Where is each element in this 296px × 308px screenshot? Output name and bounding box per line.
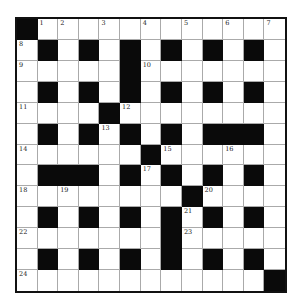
crossword-cell[interactable]	[203, 270, 224, 291]
crossword-cell[interactable]	[38, 145, 59, 166]
crossword-cell[interactable]	[244, 228, 265, 249]
crossword-cell[interactable]: 1	[38, 19, 59, 40]
crossword-cell[interactable]: 2	[58, 19, 79, 40]
crossword-cell[interactable]	[120, 145, 141, 166]
crossword-cell[interactable]	[203, 103, 224, 124]
crossword-cell[interactable]: 6	[223, 19, 244, 40]
crossword-cell[interactable]	[99, 186, 120, 207]
crossword-cell[interactable]	[17, 207, 38, 228]
crossword-cell[interactable]	[99, 270, 120, 291]
crossword-cell[interactable]	[58, 228, 79, 249]
crossword-cell[interactable]	[99, 40, 120, 61]
crossword-cell[interactable]	[58, 103, 79, 124]
crossword-cell[interactable]	[99, 145, 120, 166]
crossword-cell[interactable]	[38, 103, 59, 124]
crossword-cell[interactable]	[141, 186, 162, 207]
crossword-cell[interactable]	[38, 61, 59, 82]
crossword-cell[interactable]	[79, 61, 100, 82]
crossword-cell[interactable]: 8	[17, 40, 38, 61]
crossword-cell[interactable]	[79, 103, 100, 124]
crossword-cell[interactable]	[79, 228, 100, 249]
crossword-cell[interactable]	[58, 82, 79, 103]
crossword-cell[interactable]	[223, 228, 244, 249]
crossword-cell[interactable]: 24	[17, 270, 38, 291]
crossword-cell[interactable]	[120, 186, 141, 207]
crossword-cell[interactable]	[264, 228, 285, 249]
crossword-cell[interactable]	[141, 124, 162, 145]
crossword-cell[interactable]	[161, 270, 182, 291]
crossword-cell[interactable]	[79, 270, 100, 291]
crossword-cell[interactable]	[264, 103, 285, 124]
crossword-cell[interactable]: 12	[120, 103, 141, 124]
crossword-cell[interactable]	[264, 249, 285, 270]
crossword-cell[interactable]	[38, 186, 59, 207]
crossword-cell[interactable]	[17, 124, 38, 145]
crossword-cell[interactable]	[79, 19, 100, 40]
crossword-cell[interactable]	[79, 186, 100, 207]
crossword-cell[interactable]	[182, 145, 203, 166]
crossword-cell[interactable]	[182, 40, 203, 61]
crossword-cell[interactable]	[17, 82, 38, 103]
crossword-cell[interactable]: 17	[141, 165, 162, 186]
crossword-cell[interactable]	[264, 186, 285, 207]
crossword-cell[interactable]	[244, 19, 265, 40]
crossword-cell[interactable]	[58, 207, 79, 228]
crossword-cell[interactable]	[141, 40, 162, 61]
crossword-cell[interactable]	[223, 61, 244, 82]
crossword-cell[interactable]	[58, 270, 79, 291]
crossword-cell[interactable]	[182, 165, 203, 186]
crossword-cell[interactable]: 4	[141, 19, 162, 40]
crossword-cell[interactable]	[223, 186, 244, 207]
crossword-cell[interactable]	[223, 103, 244, 124]
crossword-cell[interactable]	[58, 124, 79, 145]
crossword-cell[interactable]	[99, 165, 120, 186]
crossword-cell[interactable]	[264, 165, 285, 186]
crossword-cell[interactable]	[99, 249, 120, 270]
crossword-cell[interactable]	[99, 82, 120, 103]
crossword-cell[interactable]	[203, 228, 224, 249]
crossword-cell[interactable]	[223, 40, 244, 61]
crossword-cell[interactable]: 7	[264, 19, 285, 40]
crossword-cell[interactable]	[244, 270, 265, 291]
crossword-cell[interactable]	[264, 145, 285, 166]
crossword-cell[interactable]	[99, 207, 120, 228]
crossword-cell[interactable]: 15	[161, 145, 182, 166]
crossword-cell[interactable]	[182, 103, 203, 124]
crossword-cell[interactable]	[38, 228, 59, 249]
crossword-cell[interactable]: 14	[17, 145, 38, 166]
crossword-cell[interactable]	[264, 207, 285, 228]
crossword-cell[interactable]: 20	[203, 186, 224, 207]
crossword-cell[interactable]: 21	[182, 207, 203, 228]
crossword-cell[interactable]	[244, 186, 265, 207]
crossword-cell[interactable]	[223, 249, 244, 270]
crossword-cell[interactable]	[161, 61, 182, 82]
crossword-cell[interactable]	[161, 103, 182, 124]
crossword-cell[interactable]: 13	[99, 124, 120, 145]
crossword-cell[interactable]	[182, 61, 203, 82]
crossword-cell[interactable]	[223, 165, 244, 186]
crossword-cell[interactable]	[223, 270, 244, 291]
crossword-cell[interactable]	[264, 82, 285, 103]
crossword-cell[interactable]	[99, 228, 120, 249]
crossword-cell[interactable]	[17, 249, 38, 270]
crossword-cell[interactable]	[141, 270, 162, 291]
crossword-cell[interactable]	[182, 270, 203, 291]
crossword-cell[interactable]	[120, 19, 141, 40]
crossword-cell[interactable]	[17, 165, 38, 186]
crossword-cell[interactable]	[264, 40, 285, 61]
crossword-cell[interactable]	[161, 19, 182, 40]
crossword-cell[interactable]: 9	[17, 61, 38, 82]
crossword-cell[interactable]: 10	[141, 61, 162, 82]
crossword-cell[interactable]: 5	[182, 19, 203, 40]
crossword-cell[interactable]	[203, 61, 224, 82]
crossword-cell[interactable]	[203, 19, 224, 40]
crossword-cell[interactable]	[244, 103, 265, 124]
crossword-cell[interactable]	[141, 228, 162, 249]
crossword-cell[interactable]	[141, 249, 162, 270]
crossword-cell[interactable]	[182, 249, 203, 270]
crossword-cell[interactable]	[223, 207, 244, 228]
crossword-cell[interactable]	[141, 82, 162, 103]
crossword-cell[interactable]: 3	[99, 19, 120, 40]
crossword-cell[interactable]	[120, 270, 141, 291]
crossword-cell[interactable]: 23	[182, 228, 203, 249]
